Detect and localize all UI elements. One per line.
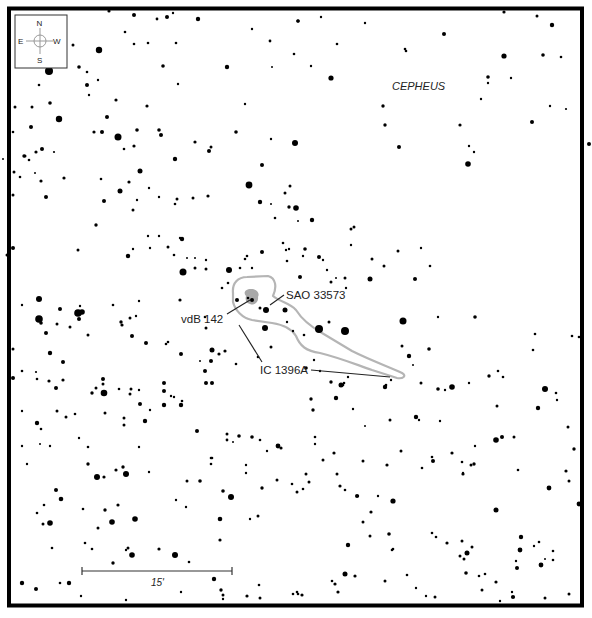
star [442,32,446,36]
star [474,445,476,447]
star [320,16,322,18]
star [157,128,161,132]
star [472,462,475,465]
star [310,65,312,67]
star [245,594,248,597]
star [302,255,304,257]
star [494,508,499,513]
star [97,79,99,81]
star [21,304,23,306]
star [244,258,247,261]
star [468,145,470,147]
star [310,218,314,222]
star [245,464,247,466]
compass-west: W [53,37,61,46]
star [459,555,462,558]
star [461,461,464,464]
star [11,376,15,380]
star [464,571,468,575]
star [217,352,220,355]
star [260,486,263,489]
star [571,335,574,338]
star [389,419,392,422]
constellation-label: CEPHEUS [392,80,446,92]
star [515,566,519,570]
star [350,244,352,246]
star [346,543,350,547]
star [130,334,134,338]
star [149,247,151,249]
star [247,297,250,300]
star [206,194,209,197]
star [565,108,567,110]
star [49,445,51,447]
star [544,558,546,560]
star [493,437,499,443]
star [364,425,366,427]
star [473,151,475,153]
star [56,323,59,326]
star [61,378,64,381]
star [207,149,211,153]
star [21,410,23,412]
star [550,23,554,27]
star [34,150,37,153]
star [62,176,65,179]
star [406,574,409,577]
star [79,305,81,307]
star [179,352,183,356]
star [344,277,347,280]
star [67,581,71,585]
star [195,429,199,433]
label-vdb142: vdB 142 [181,313,223,325]
star [413,277,417,281]
star [173,254,176,257]
star [293,53,296,56]
star [147,235,149,237]
star [85,83,89,87]
star [534,333,537,336]
star [204,381,208,385]
star [338,484,341,487]
star [364,22,366,24]
star [86,462,89,465]
star [36,378,39,381]
star [336,590,339,593]
star [123,424,126,427]
star [322,259,324,261]
compass-north: N [37,19,43,28]
star [296,591,299,594]
star [210,348,215,353]
star [314,436,317,439]
star [28,159,31,162]
star [420,382,423,385]
star [88,94,90,96]
star [178,298,181,301]
star [129,317,132,320]
star [515,560,517,562]
star [156,18,159,21]
star [250,435,254,439]
star [296,491,299,494]
star [536,15,539,18]
star [225,65,229,69]
star [308,481,311,484]
star [114,468,117,471]
star [53,151,55,153]
star [90,391,93,394]
star [250,298,254,302]
compass-south: S [37,56,42,65]
star [143,419,147,423]
star [36,296,42,302]
star [270,138,272,140]
star [218,538,221,541]
star [415,587,417,589]
star [102,475,105,478]
star [270,203,272,205]
star [180,591,182,593]
star [568,593,571,596]
star [302,488,305,491]
star [249,518,251,520]
star [124,31,127,34]
star [227,282,230,285]
